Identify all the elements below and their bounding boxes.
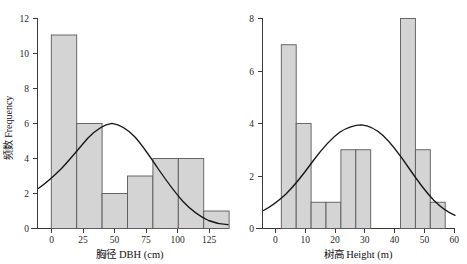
dbh-x-tick-label: 50	[110, 235, 120, 245]
bar-height-47-52	[415, 150, 430, 229]
bar-dbh-0-20	[51, 35, 76, 229]
bar-height-17-22	[326, 202, 341, 228]
panel-height-histogram: 0 2 4 6 8	[233, 0, 466, 264]
height-y-tick-label: 6	[249, 67, 254, 77]
dbh-x-ticks	[52, 229, 210, 234]
dbh-y-tick-label: 4	[24, 154, 29, 164]
dbh-x-tick-label: 75	[141, 235, 151, 245]
dbh-x-tick-label: 100	[170, 235, 185, 245]
dbh-x-axis-title: 胸径 DBH (cm)	[96, 248, 164, 261]
bar-height-27-32	[356, 150, 371, 229]
dbh-bars	[51, 35, 229, 229]
dbh-y-axis-title: 频数 Frequency	[2, 96, 14, 161]
dbh-x-tick-label: 25	[78, 235, 88, 245]
dbh-y-tick-label: 10	[20, 49, 30, 59]
bar-height-2-7	[281, 45, 296, 229]
height-y-tick-label: 0	[249, 224, 254, 234]
histogram-figure: 0 2 4 6 8 10 12	[0, 0, 467, 264]
dbh-y-tick-label: 12	[20, 14, 30, 24]
height-x-tick-label: 60	[449, 235, 459, 245]
dbh-x-tick-label: 125	[202, 235, 217, 245]
height-y-tick-label: 2	[249, 172, 254, 182]
height-x-tick-label: 20	[330, 235, 340, 245]
height-x-tick-labels: 0 10 20 30 40 50 60	[273, 235, 459, 245]
bar-dbh-80-100	[153, 159, 178, 229]
dbh-chart-svg: 0 2 4 6 8 10 12	[0, 0, 233, 264]
dbh-y-tick-labels: 0 2 4 6 8 10 12	[20, 14, 30, 234]
bar-dbh-40-60	[102, 194, 127, 229]
height-y-tick-label: 8	[249, 14, 254, 24]
bar-height-22-27	[341, 150, 356, 229]
bar-height-12-17	[311, 202, 326, 228]
height-y-ticks	[258, 19, 263, 229]
dbh-y-tick-label: 8	[24, 84, 29, 94]
height-x-tick-label: 30	[360, 235, 370, 245]
height-y-tick-labels: 0 2 4 6 8	[249, 14, 254, 234]
dbh-y-tick-label: 6	[24, 119, 29, 129]
dbh-y-tick-label: 2	[24, 189, 29, 199]
bar-dbh-60-80	[128, 176, 153, 229]
height-x-tick-label: 50	[420, 235, 430, 245]
height-x-axis-title: 树高 Height (m)	[324, 248, 393, 261]
height-chart-svg: 0 2 4 6 8	[233, 0, 466, 264]
height-x-tick-label: 0	[273, 235, 278, 245]
panel-dbh-histogram: 0 2 4 6 8 10 12	[0, 0, 233, 264]
height-x-tick-label: 10	[300, 235, 310, 245]
dbh-y-ticks	[33, 19, 38, 229]
dbh-x-tick-labels: 0 25 50 75 100 125	[49, 235, 216, 245]
bar-dbh-20-40	[77, 124, 102, 229]
bar-height-42-47	[401, 19, 416, 229]
height-x-tick-label: 40	[390, 235, 400, 245]
height-x-ticks	[275, 229, 454, 234]
dbh-x-tick-label: 0	[49, 235, 54, 245]
height-bars	[281, 19, 445, 229]
height-y-tick-label: 4	[249, 119, 254, 129]
dbh-y-tick-label: 0	[24, 224, 29, 234]
bar-height-7-12	[296, 124, 311, 229]
bar-height-52-57	[430, 202, 445, 228]
bar-dbh-100-120	[178, 159, 203, 229]
